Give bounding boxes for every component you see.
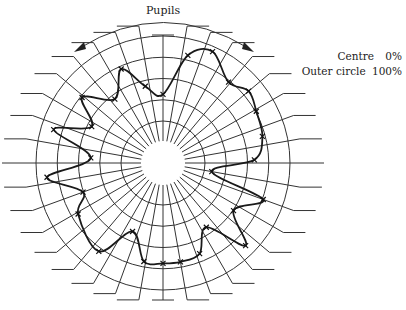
legend-outer: Outer circle 100%	[292, 64, 402, 79]
data-point-marker	[185, 53, 190, 58]
data-point-marker	[246, 89, 251, 94]
data-point-marker	[210, 49, 215, 54]
data-point-markers	[45, 49, 266, 266]
arrow-right-icon	[242, 42, 254, 52]
data-point-marker	[143, 84, 148, 89]
legend-outer-value: 100%	[372, 65, 402, 77]
data-point-marker	[51, 127, 56, 132]
legend-centre: Centre 0%	[292, 49, 402, 64]
scale-legend: Centre 0% Outer circle 100%	[292, 49, 402, 79]
grid-spokes	[36, 36, 290, 290]
legend-centre-label: Centre	[338, 50, 374, 62]
arrow-left-icon	[74, 42, 86, 52]
radar-chart	[0, 0, 406, 310]
arrowhead-icons	[74, 42, 254, 52]
legend-centre-value: 0%	[385, 50, 402, 62]
chart-title: Pupils	[133, 4, 193, 17]
legend-outer-label: Outer circle	[302, 65, 366, 77]
